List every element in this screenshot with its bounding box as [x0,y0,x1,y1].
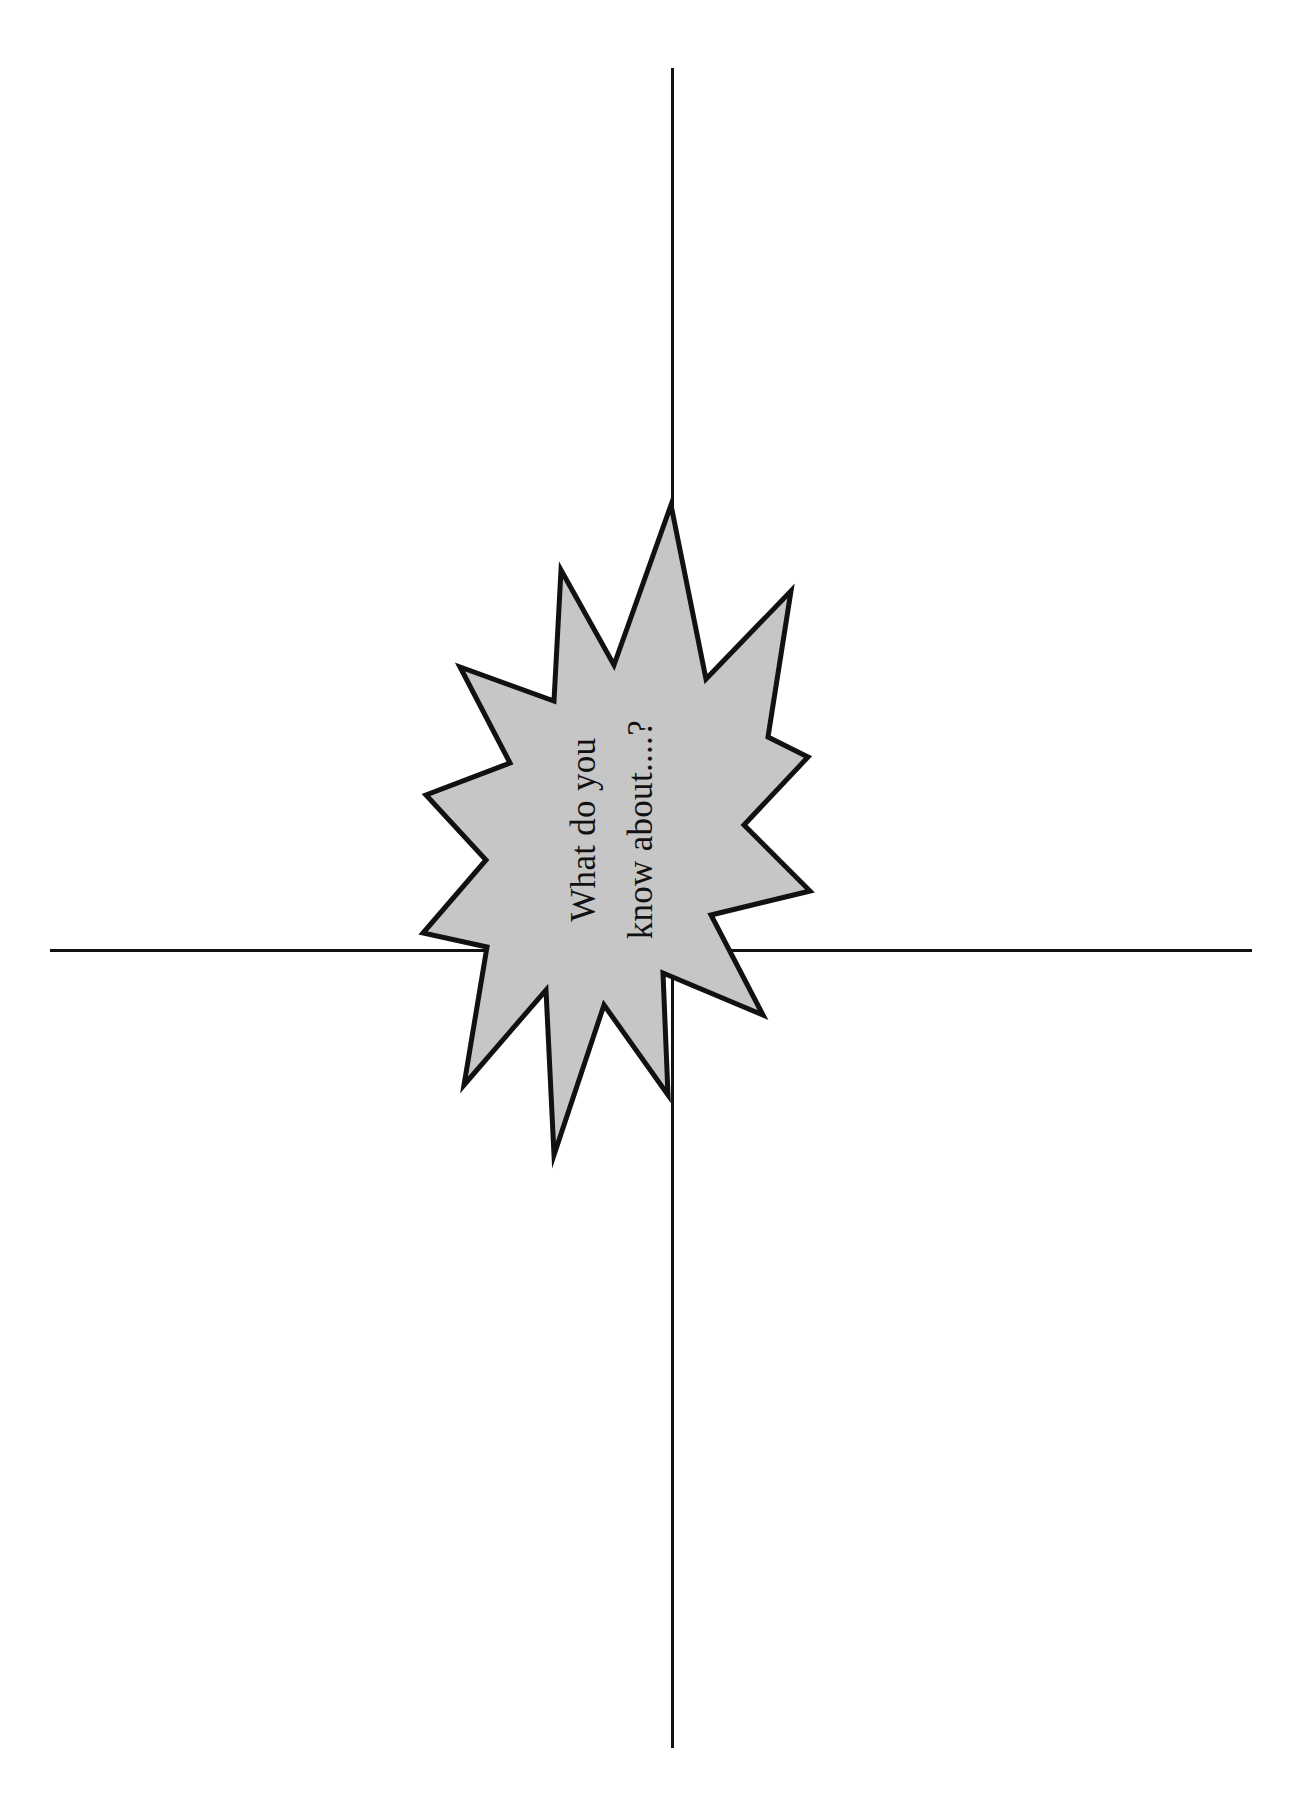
center-starburst: What do you know about....? [418,495,808,1165]
worksheet-page: What do you know about....? [0,0,1315,1808]
starburst-shape [423,505,810,1155]
